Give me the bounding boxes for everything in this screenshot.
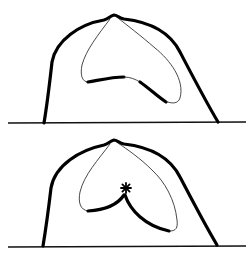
panel-bottom <box>8 140 246 247</box>
inner-loop-thick-right-top <box>140 82 166 102</box>
outer-dome-top <box>44 15 218 123</box>
inner-heart-thick-right-bottom <box>125 195 169 231</box>
inner-loop-thick-left-top <box>88 77 124 82</box>
inner-loop-outline-top <box>81 18 181 103</box>
diagram-figure <box>0 0 248 256</box>
outer-dome-bottom <box>43 140 217 246</box>
inner-heart-thick-left-bottom <box>88 195 124 211</box>
panel-top <box>8 15 246 123</box>
asterisk-icon <box>121 183 131 193</box>
inner-loop-thin-mid-top <box>124 77 140 82</box>
diagram-svg <box>0 0 248 256</box>
